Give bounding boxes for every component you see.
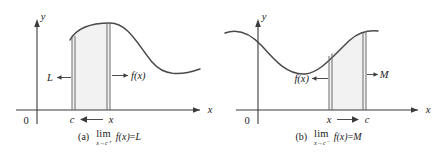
- panel-a: L f(x) 0 y x c x (a)limx→c⁺f(x)=L: [0, 0, 219, 159]
- x-axis-label-b: x: [425, 104, 431, 115]
- limit-diagram-figure: L f(x) 0 y x c x (a)limx→c⁺f(x)=L: [0, 0, 439, 159]
- y-axis-label-a: y: [40, 11, 46, 22]
- x-axis-arrowhead-b: [411, 107, 418, 113]
- y-axis-arrowhead-b: [255, 19, 261, 27]
- y-axis-label-b: y: [261, 11, 267, 22]
- function-label-b: f(x): [294, 73, 309, 85]
- limit-word-a: lim: [96, 129, 111, 140]
- origin-label-a: 0: [23, 115, 28, 126]
- caption-fx-a: f(x): [116, 131, 130, 142]
- band-region-a: [72, 23, 110, 110]
- caption-tag-a: (a): [78, 131, 89, 142]
- y-axis-arrowhead-a: [34, 19, 40, 27]
- caption-result-b: M: [353, 131, 361, 142]
- caption-expression-b: f(x)=M: [334, 131, 362, 142]
- tick-label-x-b: x: [326, 114, 332, 125]
- limit-subscript-b: x→c⁻: [314, 140, 329, 146]
- tick-label-c-a: c: [70, 114, 75, 125]
- caption-tag-b: (b): [295, 131, 307, 142]
- limit-operator-b: limx→c⁻: [314, 129, 329, 146]
- x-axis-arrowhead-a: [193, 107, 200, 113]
- caption-fx-b: f(x): [334, 131, 348, 142]
- limit-operator-a: limx→c⁺: [96, 129, 111, 146]
- caption-a: (a)limx→c⁺f(x)=L: [0, 128, 219, 145]
- function-label-a: f(x): [131, 70, 146, 82]
- x-axis-label-a: x: [207, 104, 213, 115]
- origin-label-b: 0: [244, 115, 249, 126]
- approach-arrow-head-a: [80, 116, 87, 122]
- value-label-arrowhead-b: [374, 72, 379, 76]
- limit-word-b: lim: [314, 129, 329, 140]
- approach-arrow-head-b: [352, 116, 359, 122]
- function-label-arrowhead-b: [312, 76, 317, 80]
- tick-label-x-a: x: [108, 114, 114, 125]
- value-label-M: M: [379, 69, 390, 80]
- limit-subscript-a: x→c⁺: [96, 140, 111, 146]
- caption-result-a: L: [135, 131, 141, 142]
- caption-b: (b)limx→c⁻f(x)=M: [219, 128, 438, 145]
- tick-label-c-b: c: [365, 114, 370, 125]
- panel-b: f(x) M 0 y x x c (b)limx→c⁻f(x)=M: [219, 0, 438, 159]
- function-label-arrowhead-a: [124, 73, 129, 77]
- value-label-arrowhead-a: [57, 75, 62, 79]
- value-label-L: L: [46, 72, 53, 83]
- caption-expression-a: f(x)=L: [116, 131, 141, 142]
